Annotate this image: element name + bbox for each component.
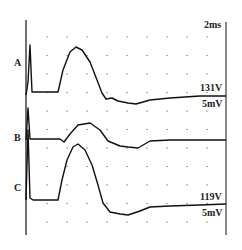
dot-grid [46, 36, 207, 222]
trace-b [26, 108, 226, 148]
trace-label-c: C [14, 183, 21, 193]
trace-label-b: B [14, 133, 21, 143]
amplitude-label-c: 119V [200, 192, 222, 202]
scale-label-a: 5mV [202, 99, 223, 109]
amplitude-label-a: 131V [200, 83, 222, 93]
traces [26, 45, 226, 215]
trace-a [26, 45, 226, 104]
time-scale-label: 2ms [204, 20, 221, 30]
trace-c [26, 130, 226, 215]
scale-label-c: 5mV [202, 208, 223, 218]
trace-label-a: A [14, 58, 21, 68]
